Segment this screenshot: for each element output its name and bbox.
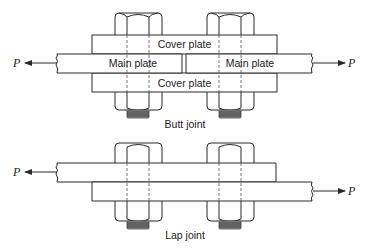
riveted-joints-diagram: Cover plate Main plate Main plate Cover … [0,0,367,249]
force-left-label: P [12,165,21,179]
bolt-head-right [207,143,254,163]
lap-joint: P P Lap joint [12,143,356,241]
force-right-label: P [347,56,356,70]
nut-left [115,92,162,118]
bolt-head-right [207,13,254,35]
nut-right [207,92,254,118]
butt-joint: Cover plate Main plate Main plate Cover … [12,13,356,130]
lap-joint-caption: Lap joint [165,229,205,241]
nut-right [207,201,254,229]
main-plate-right-label: Main plate [226,57,275,69]
bolt-head-left [115,13,162,35]
butt-joint-caption: Butt joint [165,118,206,130]
lap-plate-upper [56,163,276,182]
cover-plate-bottom-label: Cover plate [158,77,212,89]
nut-left [115,201,162,229]
main-plate-left-label: Main plate [109,57,158,69]
force-left-label: P [12,56,21,70]
bolt-head-left [115,143,162,163]
lap-plate-lower [92,182,313,201]
cover-plate-top-label: Cover plate [158,38,212,50]
force-right-label: P [347,184,356,198]
